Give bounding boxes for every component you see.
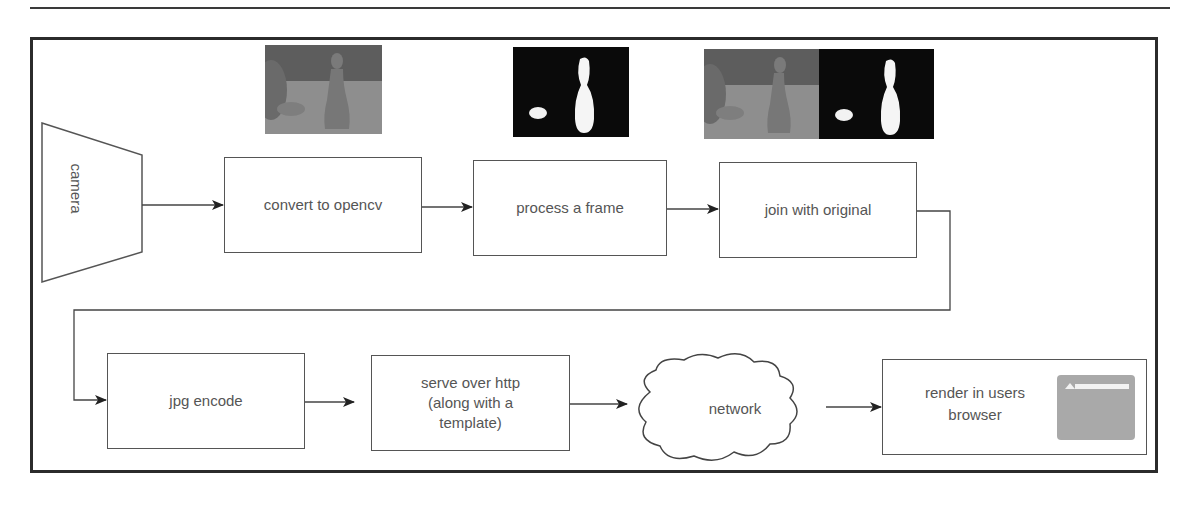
render-label: render in users browser	[900, 382, 1050, 426]
serve-label-line-1: serve over http	[421, 373, 520, 393]
convert-to-opencv-box: convert to opencv	[224, 157, 422, 253]
render-label-line-2: browser	[900, 404, 1050, 426]
camera-shape	[42, 123, 142, 282]
browser-window-icon	[1057, 375, 1135, 440]
process-frame-box: process a frame	[473, 160, 667, 256]
encode-label: jpg encode	[169, 391, 242, 411]
join-label: join with original	[765, 200, 872, 220]
jpg-encode-box: jpg encode	[107, 353, 305, 449]
join-with-original-box: join with original	[719, 162, 917, 258]
serve-label-line-3: template)	[439, 413, 502, 433]
camera-label: camera	[68, 149, 85, 229]
network-label: network	[690, 400, 780, 417]
convert-label: convert to opencv	[264, 195, 382, 215]
render-label-line-1: render in users	[900, 382, 1050, 404]
serve-label-line-2: (along with a	[428, 393, 513, 413]
serve-over-http-box: serve over http (along with a template)	[371, 355, 570, 451]
process-label: process a frame	[516, 198, 624, 218]
